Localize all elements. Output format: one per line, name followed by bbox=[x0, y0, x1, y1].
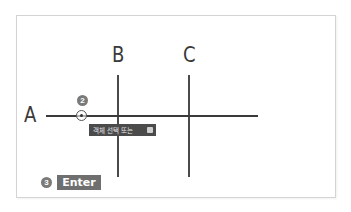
snap-point-marker[interactable] bbox=[76, 110, 87, 121]
label-b: B bbox=[112, 44, 124, 66]
step-3-badge: 3 bbox=[41, 177, 52, 188]
diagram-frame bbox=[16, 15, 336, 198]
enter-key: Enter bbox=[57, 175, 101, 190]
command-tooltip: 객체 선택 또는 bbox=[89, 124, 156, 136]
label-c: C bbox=[183, 44, 196, 66]
tooltip-text: 객체 선택 또는 bbox=[93, 125, 133, 135]
line-c bbox=[188, 75, 190, 177]
label-a: A bbox=[24, 104, 36, 126]
keyboard-icon bbox=[147, 127, 153, 133]
step-2-badge: 2 bbox=[77, 95, 88, 106]
